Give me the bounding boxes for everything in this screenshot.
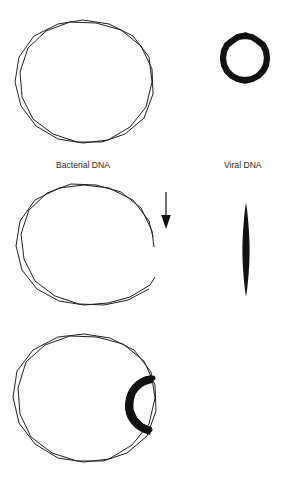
dna-integration-diagram: Bacterial DNA Viral DNA (0, 0, 293, 488)
bacterial-dna-label: Bacterial DNA (56, 160, 110, 170)
viral-dna-label: Viral DNA (224, 160, 262, 170)
